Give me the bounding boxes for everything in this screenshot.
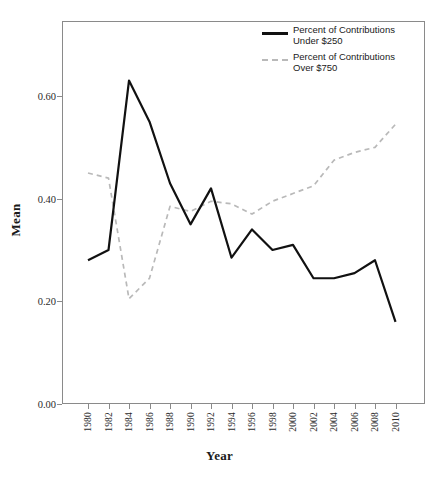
series-line-over-750 (88, 124, 396, 299)
x-axis-tick-mark (109, 404, 110, 409)
legend-swatch-dashed-line-icon (262, 54, 288, 66)
legend-label-under-250-line2: Under $250 (293, 35, 343, 46)
x-axis-tick-mark (129, 404, 130, 409)
x-axis-tick-mark (252, 404, 253, 409)
chart-page: 0.000.200.400.60 19801982198419861988199… (0, 0, 439, 478)
y-axis-tick-mark (57, 404, 62, 405)
y-axis-tick-label: 0.00 (38, 399, 56, 410)
x-axis-tick-label: 1990 (186, 412, 196, 432)
y-axis-tick-label: 0.60 (38, 91, 56, 102)
x-axis-tick-mark (191, 404, 192, 409)
x-axis-tick-label: 1992 (206, 412, 216, 432)
legend-label-over-750: Percent of Contributions Over $750 (293, 51, 395, 73)
x-axis-tick-mark (396, 404, 397, 409)
x-axis-tick-label: 1996 (247, 412, 257, 432)
x-axis-tick-label: 1994 (227, 412, 237, 432)
legend: Percent of Contributions Under $250 Perc… (262, 24, 422, 78)
legend-item-over-750: Percent of Contributions Over $750 (262, 51, 422, 73)
x-axis-tick-label: 2010 (391, 412, 401, 432)
legend-item-under-250: Percent of Contributions Under $250 (262, 24, 422, 46)
series-line-under-250 (88, 81, 396, 322)
y-axis-tick-label: 0.20 (38, 296, 56, 307)
x-axis-tick-label: 2002 (309, 412, 319, 432)
x-axis-tick-label: 2006 (350, 412, 360, 432)
x-axis-tick-label: 1982 (104, 412, 114, 432)
legend-swatch-solid-line-icon (262, 27, 288, 39)
y-axis-tick-mark (57, 96, 62, 97)
x-axis-tick-mark (211, 404, 212, 409)
x-axis-tick-mark (355, 404, 356, 409)
x-axis-tick-label: 1986 (145, 412, 155, 432)
y-axis-title: Mean (8, 190, 24, 250)
x-axis-tick-label: 1984 (124, 412, 134, 432)
x-axis-tick-mark (150, 404, 151, 409)
legend-label-over-750-line1: Percent of Contributions (293, 51, 395, 62)
legend-label-under-250: Percent of Contributions Under $250 (293, 24, 395, 46)
y-axis-tick-mark (57, 199, 62, 200)
x-axis-tick-label: 2000 (288, 412, 298, 432)
x-axis-tick-mark (170, 404, 171, 409)
x-axis-tick-label: 2008 (370, 412, 380, 432)
x-axis-tick-label: 1980 (83, 412, 93, 432)
x-axis-title: Year (0, 448, 439, 464)
x-axis-tick-mark (273, 404, 274, 409)
x-axis-tick-mark (375, 404, 376, 409)
x-axis-tick-mark (293, 404, 294, 409)
y-axis-tick-mark (57, 301, 62, 302)
x-axis-tick-mark (88, 404, 89, 409)
x-axis-tick-label: 1998 (268, 412, 278, 432)
x-axis-tick-label: 2004 (329, 412, 339, 432)
y-axis-tick-label: 0.40 (38, 193, 56, 204)
x-axis-tick-mark (314, 404, 315, 409)
legend-label-over-750-line2: Over $750 (293, 62, 337, 73)
x-axis-tick-label: 1988 (165, 412, 175, 432)
x-axis-tick-mark (334, 404, 335, 409)
plot-data-layer (62, 21, 425, 404)
legend-label-under-250-line1: Percent of Contributions (293, 24, 395, 35)
x-axis-tick-mark (232, 404, 233, 409)
